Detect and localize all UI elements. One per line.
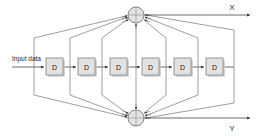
delay-box-label: D [84,64,89,71]
arrow-top-3 [123,20,129,22]
delay-box-label: D [52,64,57,71]
bottom-adder[interactable] [128,110,144,126]
delay-box-4[interactable]: D [142,58,161,77]
delay-box-2[interactable]: D [78,58,97,77]
diagram-canvas: D D D D D D [0,0,263,136]
arrow-bottom-3 [123,111,129,113]
delay-box-label: D [180,64,185,71]
output-y-label: Y [229,124,234,133]
delay-box-5[interactable]: D [174,58,193,77]
delay-box-label: D [116,64,121,71]
filter-block-diagram: D D D D D D [0,0,263,136]
output-x-label: X [229,3,234,12]
delay-box-label: D [212,64,217,71]
delay-box-6[interactable]: D [206,58,225,77]
top-adder[interactable] [128,7,144,23]
delay-box-label: D [148,64,153,71]
delay-box-3[interactable]: D [110,58,129,77]
input-data-label: Input data [12,55,41,63]
delay-box-1[interactable]: D [46,58,65,77]
